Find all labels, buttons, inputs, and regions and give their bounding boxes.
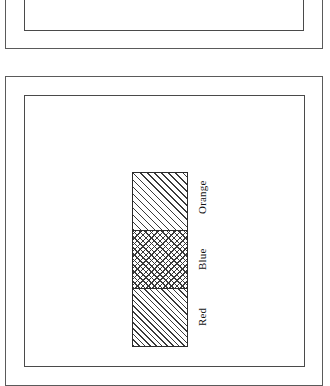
bar-segment-red [133, 288, 187, 346]
category-label-blue: Blue [197, 248, 208, 270]
category-label-orange: Orange [197, 180, 208, 214]
chart-panel: Orange Blue Red [5, 76, 323, 386]
category-label-red: Red [197, 308, 208, 326]
chart-panel-inner-frame: Orange Blue Red [24, 95, 305, 367]
plot-area: Orange Blue Red [25, 96, 304, 366]
top-panel [5, 0, 323, 49]
top-panel-inner-frame [24, 0, 304, 31]
bar-segment-blue [133, 230, 187, 288]
stacked-bar [132, 172, 188, 347]
bar-segment-orange [133, 173, 187, 230]
